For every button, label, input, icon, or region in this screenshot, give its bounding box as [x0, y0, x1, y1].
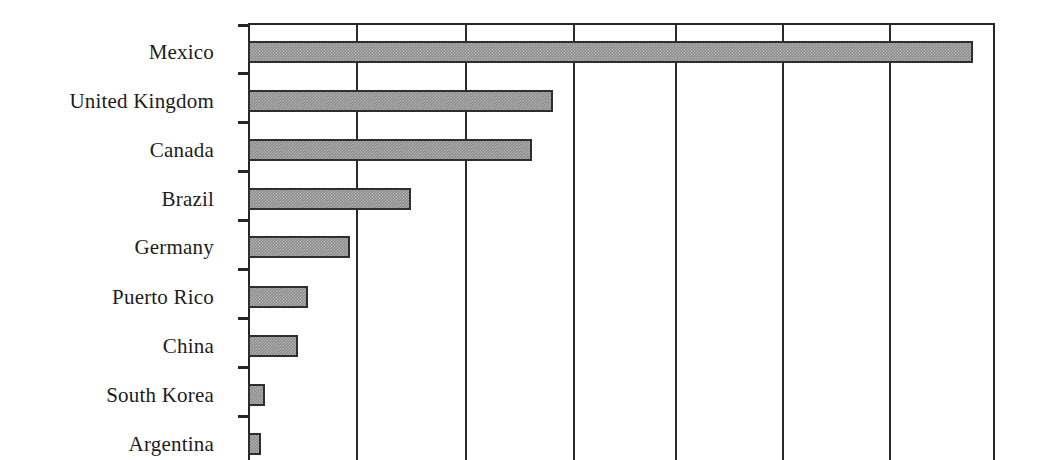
bars-layer [0, 0, 1059, 460]
bar-china [248, 335, 298, 357]
bar-united-kingdom [248, 90, 553, 112]
bar-mexico [248, 41, 973, 63]
bar-chart: Mexico United Kingdom Canada Brazil Germ… [0, 0, 1059, 460]
bar-canada [248, 139, 532, 161]
bar-south-korea [248, 384, 265, 406]
bar-brazil [248, 188, 411, 210]
bar-germany [248, 236, 350, 258]
bar-argentina [248, 433, 261, 455]
bar-puerto-rico [248, 286, 308, 308]
